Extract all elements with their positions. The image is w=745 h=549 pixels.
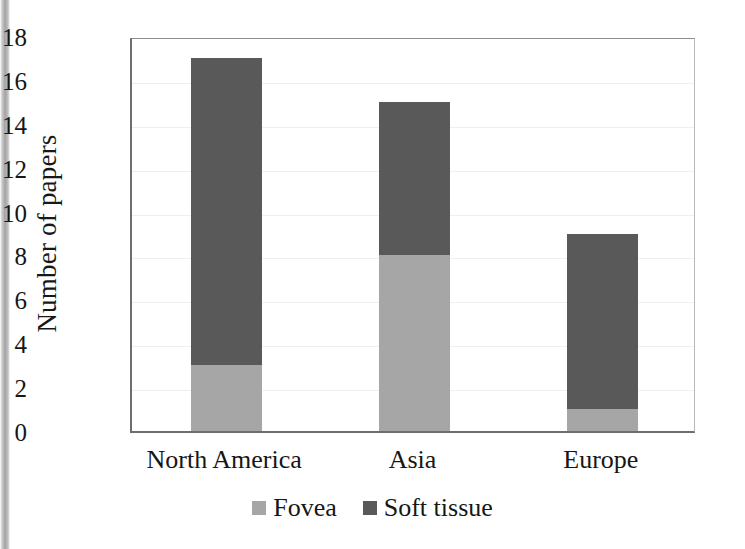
y-tick-label: 16 [0,69,27,94]
chart-legend: FoveaSoft tissue [0,495,745,521]
bar-segment[interactable] [191,365,262,431]
stacked-bar-chart: Number of papers 181614121086420 North A… [0,0,745,549]
bar-group[interactable] [567,36,638,431]
y-tick-label: 12 [0,157,27,182]
legend-label: Soft tissue [384,495,493,521]
legend-swatch-icon [363,501,377,515]
y-tick-label: 2 [0,376,27,401]
bar-segment[interactable] [379,255,450,431]
bar-segment[interactable] [567,234,638,410]
y-tick-label: 0 [0,420,27,445]
legend-entry[interactable]: Soft tissue [363,495,493,521]
plot-area [130,38,695,433]
legend-entry[interactable]: Fovea [252,495,337,521]
y-tick-label: 10 [0,201,27,226]
y-tick-label: 8 [0,244,27,269]
bar-segment[interactable] [191,58,262,365]
y-tick-label: 6 [0,288,27,313]
bar-segment[interactable] [379,102,450,256]
bar-segment[interactable] [567,409,638,431]
y-tick-label: 14 [0,113,27,138]
x-tick-label-europe: Europe [451,445,745,475]
legend-label: Fovea [273,495,337,521]
legend-swatch-icon [252,501,266,515]
y-axis-title: Number of papers [32,84,63,384]
bar-group[interactable] [379,36,450,431]
y-tick-label: 18 [0,25,27,50]
y-tick-label: 4 [0,332,27,357]
bar-group[interactable] [191,36,262,431]
